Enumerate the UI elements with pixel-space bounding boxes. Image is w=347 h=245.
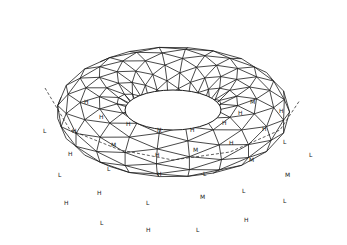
vertex-label: H: [126, 120, 131, 127]
vertex-label: H: [244, 216, 249, 223]
vertex-label: H: [229, 139, 234, 146]
vertex-label: H: [84, 98, 89, 105]
triangle-mesh: [58, 47, 290, 176]
vertex-label: H: [72, 127, 77, 134]
vertex-label: H: [157, 126, 162, 133]
vertex-label: L: [309, 151, 313, 158]
vertex-label: L: [203, 170, 207, 177]
vertex-label: L: [58, 171, 62, 178]
vertex-label: M: [111, 141, 116, 148]
torus-hole: [125, 90, 221, 130]
vertex-label: H: [155, 151, 160, 158]
vertex-label: H: [238, 109, 243, 116]
vertex-label: H: [99, 113, 104, 120]
vertex-label: H: [190, 126, 195, 133]
vertex-label: L: [100, 219, 104, 226]
vertex-label: M: [193, 146, 198, 153]
vertex-label: H: [262, 125, 267, 132]
vertex-label: H: [157, 170, 162, 177]
vertex-label: H: [68, 150, 73, 157]
vertex-label: L: [146, 199, 150, 206]
vertex-label: M: [200, 193, 205, 200]
vertex-label: L: [242, 187, 246, 194]
torus-wireframe: HHHHHHHMHLHHMHMHHLLLHLMMLHMLHLLLHHL: [0, 0, 347, 245]
torus-figure: HHHHHHHMHLHHMHMHHLLLHLMMLHMLHLLLHHL: [0, 0, 347, 245]
vertex-label: L: [196, 226, 200, 233]
vertex-label: H: [279, 107, 284, 114]
vertex-label: H: [222, 119, 227, 126]
vertex-label: M: [249, 156, 254, 163]
vertex-label: M: [250, 98, 255, 105]
vertex-label: L: [43, 127, 47, 134]
vertex-label: H: [64, 199, 69, 206]
vertex-label: M: [285, 171, 290, 178]
vertex-label: L: [283, 138, 287, 145]
vertex-label: H: [97, 189, 102, 196]
vertex-label: H: [146, 226, 151, 233]
vertex-label: L: [283, 197, 287, 204]
